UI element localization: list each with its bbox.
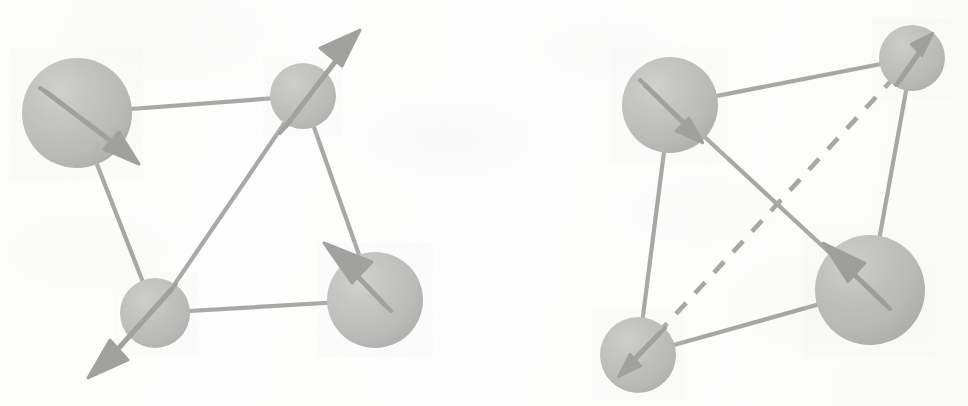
figure-root — [0, 0, 968, 406]
atom-top-right — [879, 25, 945, 91]
atom-top-left — [622, 57, 718, 153]
tetrahedra-figure-svg — [0, 0, 968, 406]
bond-L2-L3 — [155, 96, 303, 313]
